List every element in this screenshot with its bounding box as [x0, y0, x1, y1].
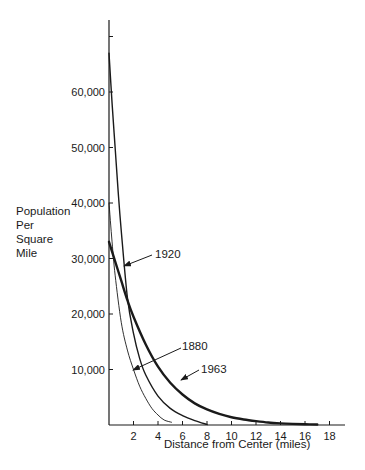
axis-ticks: 2468101214161810,00020,00030,00040,00050…: [71, 37, 335, 443]
x-tick-label: 18: [323, 430, 335, 442]
y-axis-label-line: Population: [16, 204, 70, 218]
y-tick-label: 60,000: [71, 86, 105, 98]
series-line-1963: [109, 242, 317, 425]
x-axis-label: Distance from Center (miles): [164, 438, 310, 450]
annotation-label-1880: 1880: [182, 340, 208, 352]
y-axis-label-line: Per: [16, 218, 70, 232]
annotation-arrow-1920: [124, 255, 152, 266]
y-tick-label: 20,000: [71, 308, 105, 320]
x-tick-label: 2: [130, 430, 136, 442]
x-tick-label: 4: [155, 430, 161, 442]
y-tick-label: 10,000: [71, 364, 105, 376]
annotation-label-1963: 1963: [201, 363, 227, 375]
y-axis-label-line: Mile: [16, 246, 70, 260]
y-tick-label: 40,000: [71, 197, 105, 209]
series-annotations: 188019201963: [124, 248, 227, 380]
annotation-arrow-1963: [181, 370, 199, 380]
annotation-label-1920: 1920: [155, 248, 181, 260]
series-line-1880: [109, 203, 171, 422]
y-axis-label-line: Square: [16, 232, 70, 246]
y-tick-label: 50,000: [71, 142, 105, 154]
y-tick-label: 30,000: [71, 253, 105, 265]
y-axis-label: Population Per Square Mile: [16, 204, 70, 260]
